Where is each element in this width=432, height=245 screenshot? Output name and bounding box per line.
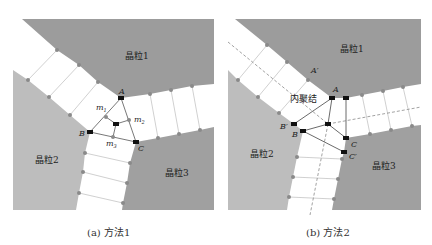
junction-lines bbox=[294, 98, 346, 152]
diagram-method-2: 晶粒1 晶粒2 晶粒3 内聚结 A′ A B′ B C C′ bbox=[0, 0, 432, 245]
caption-a: (a) 方法1 bbox=[87, 224, 130, 239]
node-C-label: C bbox=[351, 140, 357, 149]
node-A-prime-label: A′ bbox=[310, 66, 319, 75]
black-nodes bbox=[291, 96, 349, 154]
grain-1-label: 晶粒1 bbox=[340, 43, 364, 54]
grain-2-region bbox=[228, 70, 303, 210]
grain-2-label: 晶粒2 bbox=[250, 148, 274, 159]
grain-1-region bbox=[235, 19, 421, 98]
node-B-prime-label: B′ bbox=[279, 122, 288, 131]
grain-3-label: 晶粒3 bbox=[372, 160, 396, 171]
node-B-label: B bbox=[291, 130, 298, 139]
node-C-prime-label: C′ bbox=[349, 152, 357, 161]
node-A-label: A bbox=[332, 85, 339, 94]
caption-b: (b) 方法2 bbox=[306, 224, 350, 239]
cohesive-junction-label: 内聚结 bbox=[290, 93, 317, 104]
